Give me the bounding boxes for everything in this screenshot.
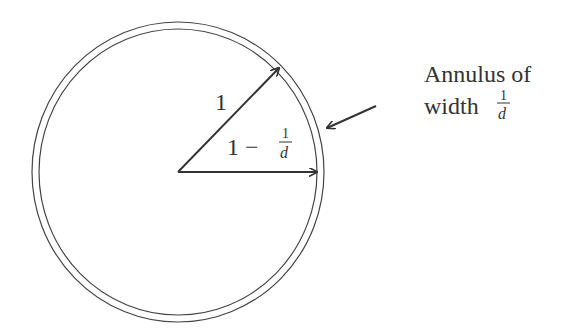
- annulus-diagram: 1 1 − 1 d Annulus of width 1 d: [0, 0, 581, 332]
- annotation-frac-num: 1: [500, 88, 507, 103]
- annulus-pointer-arrow: [327, 106, 376, 128]
- annotation-line2: width: [424, 93, 479, 119]
- inner-radius-label: 1 −: [227, 134, 259, 160]
- inner-radius-frac-den: d: [280, 144, 289, 161]
- outer-radius-label: 1: [215, 89, 227, 115]
- annotation-frac-den: d: [498, 105, 507, 122]
- inner-radius-frac-num: 1: [282, 126, 289, 141]
- annotation-line1: Annulus of: [424, 61, 531, 87]
